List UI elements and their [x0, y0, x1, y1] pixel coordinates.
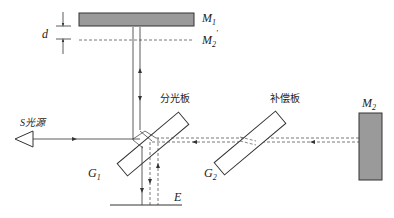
- label-beam-splitter: 分光板: [160, 92, 190, 104]
- arrow-down-icon: [140, 188, 144, 193]
- arrow-right-icon: [72, 137, 77, 141]
- compensator-g2: [214, 111, 286, 175]
- label-g2: G2: [204, 166, 217, 182]
- label-e: E: [173, 190, 182, 204]
- arrow-up-icon: [156, 163, 160, 168]
- mirror-m2: [359, 113, 382, 180]
- arrow-left-icon: [310, 140, 315, 144]
- spacing-d-indicator: [56, 12, 71, 54]
- arrow-down-icon: [148, 179, 152, 184]
- label-compensator: 补偿板: [270, 92, 300, 104]
- arrow-down-icon: [138, 96, 142, 101]
- mirror-m1: [79, 13, 194, 26]
- beam-splitter-g1: [117, 112, 189, 176]
- arrow-up-icon: [138, 68, 142, 73]
- label-d: d: [42, 27, 49, 41]
- label-m1: M1: [201, 11, 216, 27]
- michelson-interferometer-diagram: d M1 M2' S光源 分光板 G1 补偿板 G2 M2: [0, 0, 394, 218]
- label-source: S光源: [20, 117, 47, 128]
- light-source-icon: [15, 131, 33, 147]
- label-g1: G1: [88, 166, 101, 182]
- label-m2: M2: [361, 96, 376, 112]
- arrow-left-icon: [192, 140, 197, 144]
- label-m2-prime: M2': [201, 29, 218, 49]
